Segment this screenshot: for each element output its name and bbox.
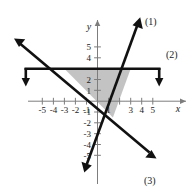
x-tick-label-neg2: -2 (72, 105, 80, 115)
y-tick-label-neg4: -4 (84, 140, 92, 150)
graph-canvas: -5 -4 -3 -2 -1 1 3 4 5 5 4 2 1 -1 -2 -3 … (0, 0, 196, 194)
x-tick-label-5: 5 (151, 105, 156, 115)
line-2-left-arrowhead (22, 78, 30, 87)
x-tick-label-1: 1 (106, 105, 111, 115)
y-tick-label-5: 5 (87, 42, 92, 52)
y-tick-label-neg5: -5 (84, 151, 92, 161)
x-tick-label-neg5: -5 (39, 105, 47, 115)
y-tick-label-neg1: -1 (84, 107, 92, 117)
y-tick-label-1: 1 (87, 86, 92, 96)
y-tick-label-neg2: -2 (84, 118, 92, 128)
x-tick-label-4: 4 (139, 105, 144, 115)
x-tick-label-neg4: -4 (50, 105, 58, 115)
x-tick-label-3: 3 (128, 105, 133, 115)
line-2-label: (2) (166, 49, 178, 61)
y-tick-label-4: 4 (87, 53, 92, 63)
x-axis-label: x (175, 103, 181, 114)
line-3-label: (3) (144, 175, 156, 187)
y-axis-label: y (86, 21, 92, 32)
coordinate-plane-figure: -5 -4 -3 -2 -1 1 3 4 5 5 4 2 1 -1 -2 -3 … (0, 0, 196, 194)
y-tick-label-neg3: -3 (84, 129, 92, 139)
x-axis-arrowhead (180, 98, 186, 104)
line-1-label: (1) (145, 16, 157, 28)
y-tick-label-2: 2 (87, 75, 92, 85)
x-tick-label-neg3: -3 (61, 105, 69, 115)
line-2-right-arrowhead (155, 78, 163, 87)
y-axis-arrowhead (95, 20, 101, 26)
